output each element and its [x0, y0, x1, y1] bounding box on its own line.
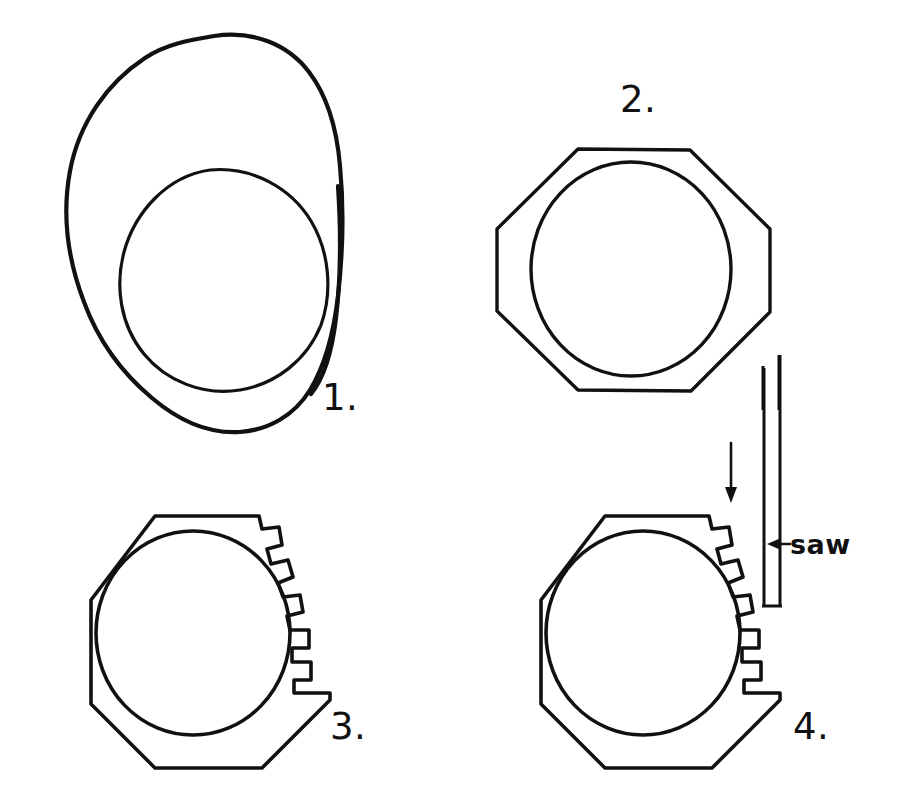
feed-arrow-head: [725, 487, 737, 503]
toothed-ring-outer-outline: [91, 516, 330, 768]
saw-label-leader: [767, 538, 790, 550]
saw-leader-arrow-head: [767, 538, 781, 550]
panel-1-number: 1.: [322, 376, 358, 419]
technical-illustration: 1. 2. 3. 4. saw: [0, 0, 897, 796]
blank-hole-outline: [120, 170, 328, 392]
saw-label: saw: [790, 529, 851, 560]
blank-outer-highlight-right: [311, 186, 340, 394]
figure-canvas: 1. 2. 3. 4. saw: [0, 0, 897, 796]
toothed-ring-hole-outline: [96, 531, 290, 735]
octagon-hole-outline: [531, 162, 731, 376]
panel-1-drawing: [66, 35, 342, 433]
toothed-ring-hole-outline-panel4: [546, 531, 740, 735]
toothed-ring-outer-outline-panel4: [541, 516, 780, 768]
panel-2-number: 2.: [620, 78, 656, 121]
panel-3-number: 3.: [330, 705, 366, 748]
octagon-outer-outline: [497, 149, 770, 391]
panel-2-drawing: [497, 149, 779, 410]
blank-outer-outline: [66, 35, 342, 433]
panel-3-drawing: [91, 516, 330, 768]
panel-4-drawing: [541, 355, 790, 768]
panel-4-number: 4.: [793, 705, 829, 748]
feed-arrow: [725, 443, 737, 503]
saw-blade: [762, 355, 782, 607]
